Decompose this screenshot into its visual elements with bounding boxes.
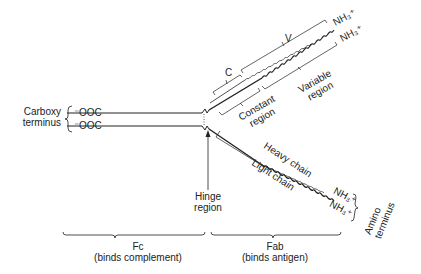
v-domain-label: V <box>285 33 292 44</box>
fab-bracket <box>211 232 341 238</box>
fab-label: Fab <box>220 241 330 252</box>
c-domain-label: C <box>225 67 232 78</box>
hinge-label-line2: region <box>185 202 231 213</box>
fc-label: Fc <box>73 241 203 252</box>
carboxy-brace <box>65 106 72 132</box>
fab-description: (binds antigen) <box>220 252 330 263</box>
hinge-arrow-head <box>206 130 211 137</box>
fc-fragment-label: Fc (binds complement) <box>73 241 203 263</box>
bracket-v <box>241 20 327 73</box>
hinge-zigzag-top <box>202 109 209 113</box>
hinge-region-label: Hinge region <box>185 191 231 213</box>
fc-description: (binds complement) <box>73 252 203 263</box>
carboxy-label-line2: terminus <box>3 117 61 128</box>
fab-fragment-label: Fab (binds antigen) <box>220 241 330 263</box>
carboxyl-group-bottom: ⁻OOC <box>74 120 102 131</box>
antibody-diagram-svg <box>0 0 421 274</box>
fc-bracket <box>63 232 205 238</box>
carboxyl-group-top: ⁻OOC <box>74 107 102 118</box>
carboxy-label-line1: Carboxy <box>3 106 61 117</box>
carboxy-terminus-label: Carboxy terminus <box>3 106 61 128</box>
hinge-zigzag-bottom <box>202 126 209 130</box>
hinge-label-line1: Hinge <box>185 191 231 202</box>
